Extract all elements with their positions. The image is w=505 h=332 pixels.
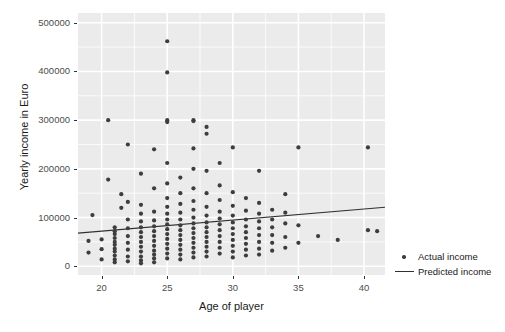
- legend-label-predicted-income: Predicted income: [415, 266, 491, 277]
- x-tick-mark: [364, 276, 365, 279]
- y-tick-label: 200000: [0, 164, 70, 174]
- x-tick-label: 30: [228, 283, 239, 293]
- y-tick-label: 400000: [0, 67, 70, 77]
- x-tick-label: 25: [162, 283, 173, 293]
- x-axis-title: Age of player: [78, 300, 385, 312]
- legend-item-actual-income: Actual income: [393, 249, 501, 264]
- y-tick-mark: [74, 218, 77, 219]
- chart-legend: Actual income Predicted income: [393, 249, 501, 279]
- y-tick-mark: [74, 71, 77, 72]
- y-tick-mark: [74, 23, 77, 24]
- x-tick-label: 40: [359, 283, 370, 293]
- y-tick-label: 500000: [0, 18, 70, 28]
- y-tick-mark: [74, 266, 77, 267]
- y-tick-label: 300000: [0, 115, 70, 125]
- x-tick-mark: [298, 276, 299, 279]
- y-axis-title: Yearly income in Euro: [18, 27, 30, 247]
- y-tick-mark: [74, 169, 77, 170]
- x-tick-mark: [167, 276, 168, 279]
- legend-line-icon: [393, 264, 415, 279]
- x-tick-mark: [233, 276, 234, 279]
- x-tick-label: 20: [96, 283, 107, 293]
- x-tick-mark: [102, 276, 103, 279]
- legend-label-actual-income: Actual income: [415, 251, 478, 262]
- y-tick-mark: [74, 120, 77, 121]
- plot-area: [78, 13, 385, 275]
- legend-item-predicted-income: Predicted income: [393, 264, 501, 279]
- scatter-chart: 0100000200000300000400000500000 20253035…: [0, 0, 505, 332]
- plot-panel: [78, 13, 385, 275]
- y-tick-label: 100000: [0, 213, 70, 223]
- y-tick-label: 0: [0, 261, 70, 271]
- legend-dot-icon: [393, 249, 415, 264]
- x-tick-label: 35: [293, 283, 304, 293]
